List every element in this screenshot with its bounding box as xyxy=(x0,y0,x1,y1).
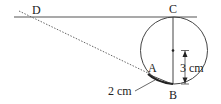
segment-AB xyxy=(150,75,172,84)
label-D: D xyxy=(32,3,41,17)
label-B: B xyxy=(169,88,177,102)
arrow-up-icon xyxy=(183,51,188,57)
label-C: C xyxy=(169,2,177,16)
geometry-diagram: D C A B 2 cm 3 cm xyxy=(0,0,221,104)
dotted-line-DA xyxy=(19,11,150,74)
center-point xyxy=(172,49,175,52)
label-3cm: 3 cm xyxy=(180,61,204,75)
leader-2cm xyxy=(135,80,155,91)
label-2cm: 2 cm xyxy=(108,84,132,98)
label-A: A xyxy=(148,61,157,75)
